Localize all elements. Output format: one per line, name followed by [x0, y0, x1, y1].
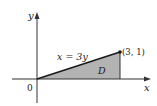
equation-label: x = 3y	[57, 51, 88, 62]
origin-label: 0	[27, 83, 33, 93]
x-axis-arrow-icon	[144, 77, 151, 82]
point-label: (3, 1)	[122, 47, 145, 57]
region-diagram: y x 0 x = 3y (3, 1) D	[0, 0, 157, 106]
x-axis-label: x	[144, 82, 150, 93]
y-axis-label: y	[27, 10, 34, 21]
y-axis-arrow-icon	[35, 12, 40, 19]
region-label: D	[97, 65, 106, 76]
